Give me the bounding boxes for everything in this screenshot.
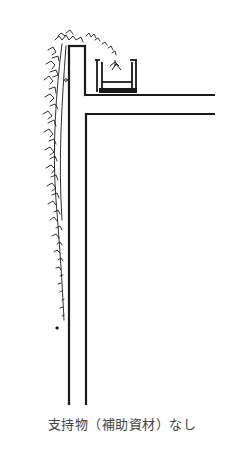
figure-caption: 支持物（補助資材）なし [0,414,244,433]
plant [110,60,121,70]
roof-slab [85,95,215,114]
trailing-ivy [43,30,116,329]
wall [69,46,86,404]
planter-box [95,60,137,93]
wall-section-diagram [0,0,244,452]
